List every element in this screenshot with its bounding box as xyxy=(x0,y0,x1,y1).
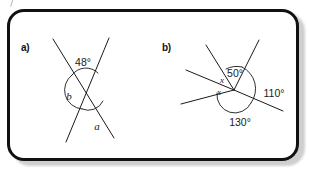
figure-b-angle-110-label: 110° xyxy=(264,87,285,99)
figure-a-angle-b-label: b xyxy=(66,90,72,102)
figure-b-angle-50-label: 50° xyxy=(227,67,243,79)
figure-a-line-1 xyxy=(53,39,114,138)
figure-b-ray-left-lower xyxy=(181,90,234,104)
figure-b-arc-110 xyxy=(242,67,256,103)
figure-b-angle-x-lower-label: x xyxy=(216,87,221,97)
figures-layer: 48° b a xyxy=(10,12,302,164)
figure-b-angle-130-label: 130° xyxy=(229,116,251,128)
geometry-drawing: 48° b a xyxy=(10,12,302,164)
figure-a-angle-48-label: 48° xyxy=(75,56,91,68)
figure-a-angle-a-label: a xyxy=(94,120,100,132)
diagram-panel: a) b) 48° b a xyxy=(7,9,299,161)
figure-a-group: 48° b a xyxy=(53,38,114,142)
figure-b-arc-130 xyxy=(217,93,251,113)
figure-b-group: 50° 110° 130° x x xyxy=(181,40,284,128)
figure-a-line-2 xyxy=(66,38,109,142)
scan-artifact-mark xyxy=(10,0,21,9)
page-canvas: a) b) 48° b a xyxy=(0,0,309,170)
figure-b-angle-x-upper-label: x xyxy=(219,75,224,85)
